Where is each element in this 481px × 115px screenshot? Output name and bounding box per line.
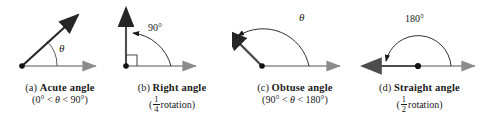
paren-open: ( [149,99,152,110]
paren-close: ) [439,99,442,110]
caption-line-primary: (d) Straight angle [358,82,481,93]
rotation-fraction: 12 [401,95,407,113]
panel-letter: (b) [138,82,150,93]
caption-line-primary: (c) Obtuse angle [232,82,358,93]
angle-types-figure: θ (a) Acute angle (0° < θ < 90°) [0,0,481,115]
angle-label: θ [59,42,65,54]
panel-right-angle: 90° (b) Right angle (14rotation) [112,0,232,115]
caption-line-condition: (12rotation) [358,95,481,113]
caption-line-primary: (b) Right angle [112,82,232,93]
fraction-denominator: 4 [153,105,159,114]
rotation-arc [386,36,451,66]
angle-arc [47,41,57,66]
panel-letter: (a) [25,82,37,93]
condition-lt-2: < [60,94,71,105]
rotation-word: rotation [161,99,192,110]
fraction-denominator: 2 [401,105,407,114]
condition-lt-2: < [295,94,306,105]
paren-open: ( [396,99,399,110]
panel-title: Right angle [153,82,207,93]
right-angle-diagram: 90° [112,0,232,78]
condition-lt-1: < [44,94,55,105]
panel-letter: (c) [257,82,269,93]
condition-close: ) [85,94,88,105]
vertex-point [415,63,421,69]
angle-label: 180° [405,13,424,24]
rotation-arc [133,33,171,66]
condition-lt-1: < [279,94,290,105]
paren-close: ) [192,99,195,110]
caption-line-condition: (0° < θ < 90°) [0,95,120,106]
condition-close: ) [325,94,328,105]
panel-title: Acute angle [40,82,95,93]
acute-angle-diagram: θ [0,0,120,78]
straight-angle-caption: (d) Straight angle (12rotation) [358,82,481,113]
rotation-arc [238,29,309,66]
rotation-fraction: 14 [153,95,159,113]
panel-letter: (d) [379,82,391,93]
vertex-point [19,63,25,69]
panel-title: Obtuse angle [272,82,333,93]
obtuse-angle-caption: (c) Obtuse angle (90° < θ < 180°) [232,82,358,106]
panel-straight-angle: 180° (d) Straight angle (12rotation) [358,0,481,115]
caption-line-condition: (14rotation) [112,95,232,113]
caption-line-primary: (a) Acute angle [0,82,120,93]
panel-obtuse-angle: θ (c) Obtuse angle (90° < θ < 180°) [232,0,358,115]
vertex-point [259,63,265,69]
terminal-ray [22,15,78,66]
condition-value-1: 90 [265,94,275,105]
obtuse-angle-diagram: θ [232,0,358,78]
angle-label: θ [299,11,305,23]
vertex-point [123,63,129,69]
caption-line-condition: (90° < θ < 180°) [232,95,358,106]
condition-value-2: 180 [306,94,321,105]
panel-acute-angle: θ (a) Acute angle (0° < θ < 90°) [0,0,120,115]
straight-angle-diagram: 180° [358,0,481,78]
condition-value: 90 [71,94,81,105]
angle-label: 90° [148,22,162,33]
rotation-word: rotation [408,99,439,110]
terminal-ray [232,30,262,66]
right-angle-caption: (b) Right angle (14rotation) [112,82,232,113]
acute-angle-caption: (a) Acute angle (0° < θ < 90°) [0,82,120,106]
panel-title: Straight angle [394,82,460,93]
